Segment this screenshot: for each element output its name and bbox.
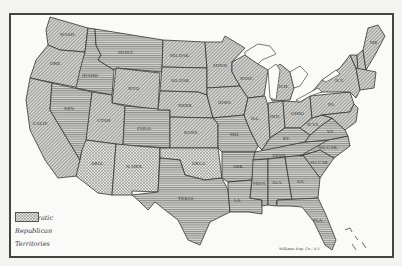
state-iowa[interactable]: IOWA: [207, 86, 248, 118]
svg-text:FLA.: FLA.: [313, 218, 324, 223]
svg-text:SO.CAR.: SO.CAR.: [310, 160, 330, 165]
svg-text:KY.: KY.: [283, 136, 290, 141]
svg-text:MO.: MO.: [230, 132, 239, 137]
svg-text:IDAHO: IDAHO: [82, 73, 98, 78]
svg-text:SO.DAK.: SO.DAK.: [171, 78, 191, 83]
us-election-map: WASH. ORE. CALIF. IDAHO NEV. MONT. WYO. …: [0, 0, 402, 266]
svg-text:N.Y.: N.Y.: [335, 78, 344, 83]
svg-text:OKLA.: OKLA.: [192, 161, 207, 166]
engraver-credit: Williams Eng. Co., N.Y.: [279, 247, 321, 251]
legend: Democratic Republican Territories: [15, 212, 53, 251]
svg-text:N.MEX.: N.MEX.: [126, 164, 144, 169]
svg-text:LA.: LA.: [234, 198, 242, 203]
svg-text:PA.: PA.: [328, 102, 335, 107]
svg-text:MISS.: MISS.: [253, 181, 267, 186]
svg-text:IND.: IND.: [270, 114, 281, 119]
state-ark[interactable]: ARK.: [222, 152, 255, 182]
svg-text:WYO.: WYO.: [128, 86, 140, 91]
svg-text:NEBR.: NEBR.: [178, 103, 193, 108]
svg-text:WISC.: WISC.: [240, 76, 254, 81]
svg-text:NO.CAR.: NO.CAR.: [318, 145, 338, 150]
svg-text:OHIO: OHIO: [291, 111, 304, 116]
svg-text:ME.: ME.: [370, 40, 379, 45]
state-fla[interactable]: FLA.: [277, 198, 336, 250]
state-wyo[interactable]: WYO.: [112, 68, 160, 110]
svg-text:KANS.: KANS.: [184, 130, 199, 135]
state-nmex[interactable]: N.MEX.: [112, 144, 160, 195]
svg-text:ILL.: ILL.: [251, 116, 260, 121]
svg-text:ALA.: ALA.: [271, 180, 283, 185]
svg-text:MINN.: MINN.: [213, 63, 228, 68]
state-nodak[interactable]: NO.DAK.: [162, 40, 207, 68]
caribbean-islands: [345, 228, 366, 250]
svg-text:W.VA.: W.VA.: [307, 122, 320, 127]
svg-text:MONT.: MONT.: [118, 50, 134, 55]
state-kans[interactable]: KANS.: [170, 117, 218, 148]
svg-text:NEV.: NEV.: [64, 106, 75, 111]
svg-text:VA.: VA.: [326, 129, 335, 134]
svg-text:COLO.: COLO.: [137, 126, 152, 131]
svg-text:ARK.: ARK.: [232, 164, 244, 169]
svg-text:ARIZ.: ARIZ.: [90, 161, 104, 166]
svg-text:WASH.: WASH.: [60, 32, 76, 37]
state-new-england-south[interactable]: [356, 68, 376, 90]
legend-label: Territories: [15, 240, 50, 248]
legend-item-territories: Territories: [15, 238, 53, 250]
svg-text:UTAH: UTAH: [97, 118, 111, 123]
svg-text:ORE.: ORE.: [50, 61, 62, 66]
legend-item-republican: Republican: [15, 225, 53, 237]
state-me[interactable]: ME.: [363, 25, 385, 70]
svg-text:GA.: GA.: [297, 179, 305, 184]
svg-text:TEXAS: TEXAS: [178, 196, 194, 201]
legend-label: Republican: [15, 227, 52, 235]
territories-swatch: [15, 212, 39, 222]
svg-text:CALIF.: CALIF.: [33, 121, 48, 126]
svg-text:NO.DAK.: NO.DAK.: [170, 53, 190, 58]
state-colo[interactable]: COLO.: [123, 106, 170, 148]
svg-text:IOWA: IOWA: [218, 100, 232, 105]
